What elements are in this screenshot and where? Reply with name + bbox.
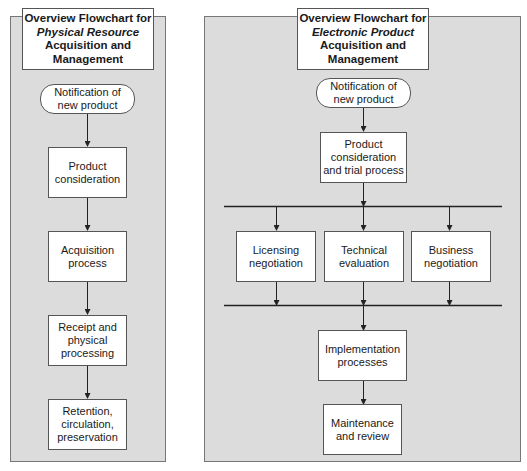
right-node-notification: Notification of new product xyxy=(316,78,411,108)
node-text: circulation, xyxy=(57,418,118,431)
node-text: Notification of xyxy=(54,86,121,99)
left-title-line4: Management xyxy=(24,53,151,67)
node-text: processes xyxy=(325,356,400,369)
node-text: processing xyxy=(58,347,117,360)
left-node-product-consideration: Product consideration xyxy=(48,147,127,198)
node-text: Product xyxy=(55,160,120,173)
right-chart-title: Overview Flowchart for Electronic Produc… xyxy=(297,8,429,70)
right-node-product-consideration-trial: Product consideration and trial process xyxy=(320,132,407,183)
node-text: physical xyxy=(58,334,117,347)
node-text: Product xyxy=(323,138,404,151)
left-title-line1: Overview Flowchart for xyxy=(24,12,151,26)
node-text: negotiation xyxy=(249,257,303,270)
left-node-receipt-processing: Receipt and physical processing xyxy=(48,315,127,366)
left-node-retention: Retention, circulation, preservation xyxy=(48,399,127,450)
node-text: Licensing xyxy=(249,244,303,257)
node-text: process xyxy=(61,257,114,270)
node-text: Receipt and xyxy=(58,321,117,334)
right-title-line2: Electronic Product xyxy=(299,26,426,40)
node-text: Technical xyxy=(339,244,389,257)
right-title-line3: Acquisition and xyxy=(299,39,426,53)
node-text: Implementation xyxy=(325,343,400,356)
left-title-line2: Physical Resource xyxy=(24,26,151,40)
node-text: Acquisition xyxy=(61,244,114,257)
left-node-notification: Notification of new product xyxy=(40,84,135,114)
node-text: Notification of xyxy=(330,80,397,93)
right-node-business-negotiation: Business negotiation xyxy=(411,231,491,282)
node-text: consideration xyxy=(323,151,404,164)
left-title-line3: Acquisition and xyxy=(24,39,151,53)
node-text: new product xyxy=(330,93,397,106)
node-text: new product xyxy=(54,99,121,112)
right-title-line1: Overview Flowchart for xyxy=(299,12,426,26)
node-text: negotiation xyxy=(424,257,478,270)
node-text: evaluation xyxy=(339,257,389,270)
node-text: preservation xyxy=(57,431,118,444)
right-title-line4: Management xyxy=(299,53,426,67)
node-text: Maintenance xyxy=(331,417,394,430)
right-node-implementation-processes: Implementation processes xyxy=(318,330,407,381)
node-text: and trial process xyxy=(323,164,404,177)
node-text: consideration xyxy=(55,173,120,186)
right-node-technical-evaluation: Technical evaluation xyxy=(324,231,404,282)
left-chart-title: Overview Flowchart for Physical Resource… xyxy=(22,8,154,70)
node-text: Retention, xyxy=(57,405,118,418)
node-text: Business xyxy=(424,244,478,257)
right-node-maintenance-review: Maintenance and review xyxy=(323,404,402,455)
left-node-acquisition-process: Acquisition process xyxy=(48,231,127,282)
node-text: and review xyxy=(331,430,394,443)
right-node-licensing-negotiation: Licensing negotiation xyxy=(236,231,316,282)
